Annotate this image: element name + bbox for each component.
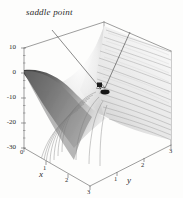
x-axis-line [24,148,90,186]
surface-body [24,26,171,175]
y-axis-ticks [117,145,171,176]
y-tick-label-3: 3 [169,148,172,155]
z-axis-ticks [21,48,26,148]
x-tick-label-0: 0 [20,149,23,156]
z-tick-label-minus30: -30 [0,144,16,151]
x-tick-label-1: 1 [43,165,46,172]
surface-plot-svg [0,0,183,198]
y-tick-label-1: 1 [114,176,117,183]
figure-container: saddle point 10 0 -10 -20 -30 0 1 2 3 1 … [0,0,183,198]
y-tick-label-2: 2 [141,162,144,169]
saddle-point-annotation: saddle point [26,8,73,17]
z-tick-label-0: 0 [1,69,16,76]
x-tick-label-2: 2 [65,177,68,184]
x-axis-label: x [39,170,43,179]
z-tick-label-minus20: -20 [0,119,16,126]
x-tick-label-3: 3 [87,189,90,196]
z-tick-label-10: 10 [1,44,16,51]
x-axis-ticks [24,148,90,190]
z-tick-label-minus10: -10 [0,94,16,101]
y-axis-label: y [127,176,131,185]
